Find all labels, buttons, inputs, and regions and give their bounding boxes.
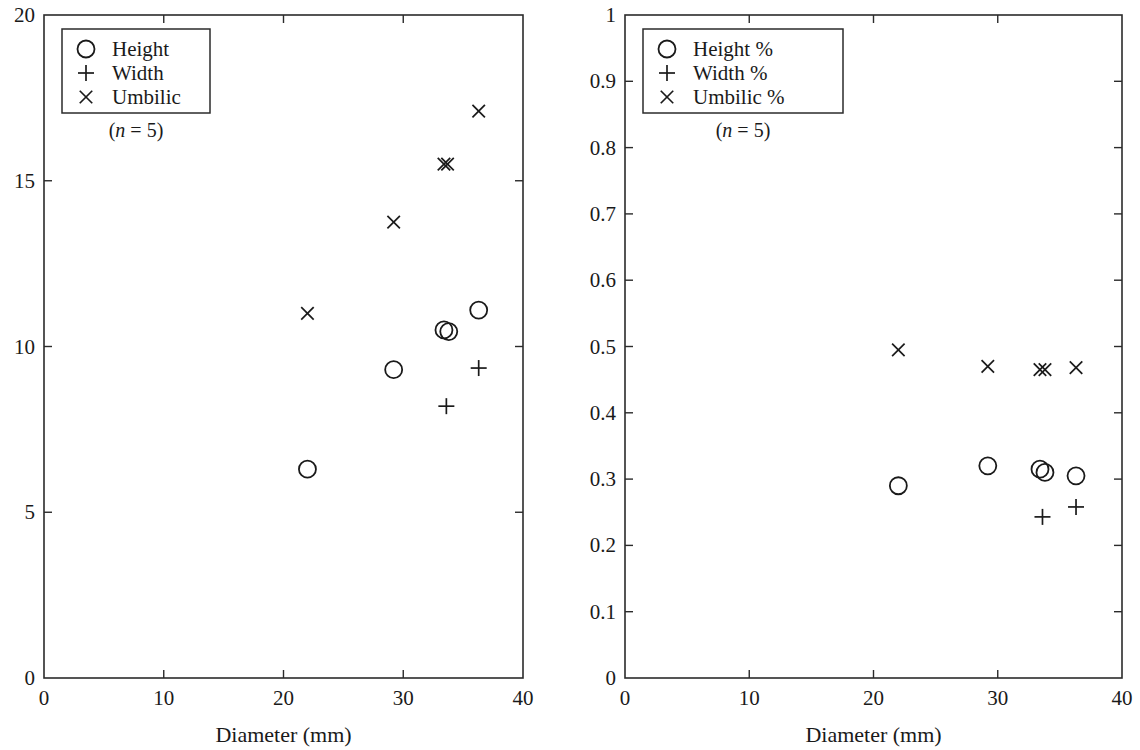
legend-item-label: Width % xyxy=(693,61,767,85)
scatter-plot-left: 01020304005101520Diameter (mm)HeightWidt… xyxy=(0,0,570,750)
x-tick-label: 30 xyxy=(393,686,414,710)
y-tick-label: 0.8 xyxy=(590,136,616,160)
y-tick-label: 15 xyxy=(14,169,35,193)
marker-circle xyxy=(979,457,996,474)
scatter-plot-right: 01020304000.10.20.30.40.50.60.70.80.91Di… xyxy=(570,0,1140,750)
legend-item-label: Height xyxy=(112,37,169,61)
marker-circle xyxy=(1068,467,1085,484)
x-tick-label: 0 xyxy=(620,686,631,710)
plot-frame xyxy=(625,15,1122,678)
sample-size-note: (n = 5) xyxy=(716,119,771,142)
legend-item-label: Umbilic xyxy=(112,85,181,109)
legend-item-label: Width xyxy=(112,61,164,85)
sample-size-note: (n = 5) xyxy=(109,119,164,142)
plot-frame xyxy=(44,15,523,678)
y-tick-label: 0.5 xyxy=(590,335,616,359)
marker-circle xyxy=(299,461,316,478)
series-umbilic xyxy=(301,105,485,320)
marker-circle xyxy=(1036,464,1053,481)
y-tick-label: 5 xyxy=(25,500,36,524)
y-tick-label: 0.7 xyxy=(590,202,616,226)
legend: Height %Width %Umbilic % xyxy=(643,29,843,113)
y-tick-label: 20 xyxy=(14,3,35,27)
y-tick-label: 0 xyxy=(606,666,617,690)
y-tick-label: 0.4 xyxy=(590,401,617,425)
chart-panel-right: 01020304000.10.20.30.40.50.60.70.80.91Di… xyxy=(570,0,1140,750)
marker-circle xyxy=(890,477,907,494)
series-width xyxy=(1034,499,1084,525)
x-tick-label: 40 xyxy=(1112,686,1133,710)
series-width xyxy=(438,360,486,414)
x-tick-label: 30 xyxy=(987,686,1008,710)
y-tick-label: 10 xyxy=(14,335,35,359)
x-tick-label: 20 xyxy=(273,686,294,710)
series-height xyxy=(890,457,1085,494)
chart-panel-left: 01020304005101520Diameter (mm)HeightWidt… xyxy=(0,0,570,750)
x-tick-label: 0 xyxy=(39,686,50,710)
y-tick-label: 0.3 xyxy=(590,467,616,491)
y-tick-label: 0.2 xyxy=(590,533,616,557)
marker-circle xyxy=(470,302,487,319)
y-tick-label: 0 xyxy=(25,666,36,690)
x-axis-title: Diameter (mm) xyxy=(215,722,351,747)
y-tick-label: 0.9 xyxy=(590,69,616,93)
y-tick-label: 1 xyxy=(606,3,617,27)
legend-item-label: Height % xyxy=(693,37,773,61)
legend: HeightWidthUmbilic xyxy=(62,29,210,113)
figure-canvas: 01020304005101520Diameter (mm)HeightWidt… xyxy=(0,0,1140,750)
legend-item-label: Umbilic % xyxy=(693,85,785,109)
x-tick-label: 20 xyxy=(863,686,884,710)
x-axis-title: Diameter (mm) xyxy=(805,722,941,747)
x-tick-label: 40 xyxy=(513,686,534,710)
series-height xyxy=(299,302,487,478)
y-tick-label: 0.6 xyxy=(590,268,616,292)
x-tick-label: 10 xyxy=(153,686,174,710)
marker-circle xyxy=(385,361,402,378)
x-tick-label: 10 xyxy=(739,686,760,710)
y-tick-label: 0.1 xyxy=(590,600,616,624)
series-umbilic xyxy=(892,344,1082,376)
